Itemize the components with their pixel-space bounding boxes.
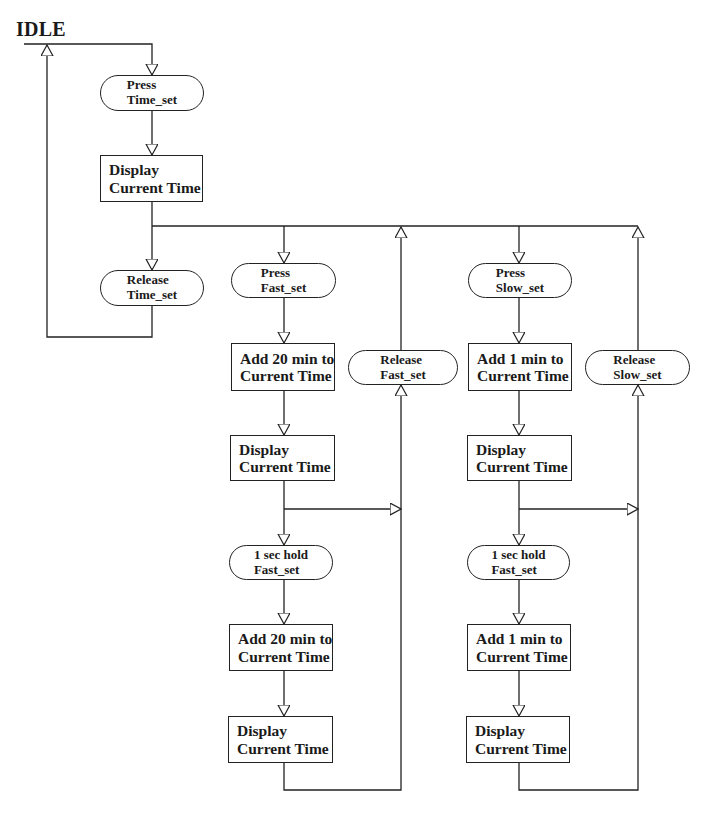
node-label-line1: Display [237, 722, 332, 739]
node-add-20-min-2: Add 20 min toCurrent Time [229, 624, 333, 671]
node-label-line1: Display [109, 161, 202, 178]
node-label-line1: 1 sec hold [254, 548, 308, 563]
node-label-line2: Fast_set [380, 368, 426, 383]
node-label-line2: Time_set [127, 288, 177, 303]
node-display-fast-2: DisplayCurrent Time [228, 716, 333, 763]
node-label-line2: Fast_set [254, 563, 300, 578]
node-label-line1: Release [380, 353, 422, 368]
node-release-slow-set: ReleaseSlow_set [585, 350, 690, 385]
node-label-line2: Current Time [237, 740, 332, 757]
node-label-line2: Current Time [109, 179, 202, 196]
node-label-line2: Slow_set [613, 368, 661, 383]
node-label-line1: Add 20 min to [240, 350, 334, 367]
node-label-line2: Current Time [476, 648, 570, 665]
node-label-line1: Release [613, 353, 655, 368]
node-label-line1: Add 20 min to [238, 630, 332, 647]
node-label-line1: Press [261, 266, 290, 281]
node-label-line2: Current Time [476, 458, 571, 475]
idle-line [24, 44, 152, 75]
node-display-fast-1: DisplayCurrent Time [230, 435, 335, 481]
node-hold-slow-column: 1 sec holdFast_set [467, 545, 570, 580]
node-label-line2: Fast_set [491, 563, 537, 578]
node-press-time-set: PressTime_set [100, 75, 204, 111]
node-press-fast-set: PressFast_set [231, 263, 336, 298]
node-display-slow-2: DisplayCurrent Time [466, 716, 570, 763]
node-label-line2: Time_set [127, 93, 177, 108]
node-label-line2: Current Time [238, 648, 332, 665]
node-press-slow-set: PressSlow_set [468, 263, 572, 298]
node-label-line1: Display [475, 722, 569, 739]
node-label-line1: Release [127, 273, 169, 288]
node-label-line2: Fast_set [261, 281, 307, 296]
node-label-line1: 1 sec hold [491, 548, 545, 563]
node-label-line1: Display [239, 441, 334, 458]
node-label-line2: Current Time [477, 367, 571, 384]
node-add-20-min-1: Add 20 min toCurrent Time [231, 343, 335, 391]
node-release-fast-set: ReleaseFast_set [348, 350, 458, 385]
idle-state-title: IDLE [16, 18, 66, 41]
node-add-1-min-2: Add 1 min toCurrent Time [467, 624, 571, 671]
node-display-current-time: DisplayCurrent Time [100, 155, 203, 202]
node-display-slow-1: DisplayCurrent Time [467, 435, 572, 481]
flow-connectors [0, 0, 716, 817]
node-label-line2: Current Time [475, 740, 569, 757]
node-add-1-min-1: Add 1 min toCurrent Time [468, 343, 572, 391]
node-label-line1: Display [476, 441, 571, 458]
node-label-line2: Current Time [240, 367, 334, 384]
node-label-line2: Current Time [239, 458, 334, 475]
node-label-line1: Add 1 min to [477, 350, 571, 367]
node-label-line2: Slow_set [496, 281, 544, 296]
node-release-time-set: ReleaseTime_set [100, 270, 204, 306]
node-label-line1: Press [127, 78, 156, 93]
node-label-line1: Add 1 min to [476, 630, 570, 647]
node-label-line1: Press [496, 266, 525, 281]
node-hold-fast-set: 1 sec holdFast_set [229, 545, 333, 580]
